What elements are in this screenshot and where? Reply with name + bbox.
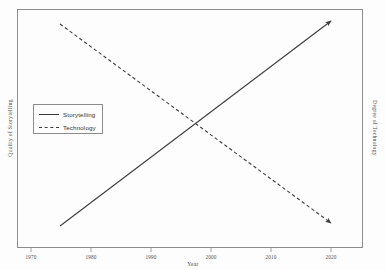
legend-label-storytelling: Storytelling — [63, 111, 95, 118]
legend-entry-technology: Technology — [34, 120, 102, 134]
chart-legend: Storytelling Technology — [33, 104, 103, 134]
x-tick-label-1980: 1980 — [85, 254, 96, 260]
legend-entry-storytelling: Storytelling — [34, 107, 102, 121]
x-tick-label-2000: 2000 — [205, 254, 216, 260]
legend-key-solid-line-icon — [39, 109, 59, 119]
y-axis-title-right: Degree of Technology — [372, 100, 378, 156]
x-axis-title: Year — [187, 261, 199, 267]
x-tick-label-2020: 2020 — [325, 254, 336, 260]
y-axis-title-left: Quality of Storytelling — [7, 99, 13, 157]
legend-label-technology: Technology — [63, 124, 96, 131]
x-tick-label-1990: 1990 — [145, 254, 156, 260]
x-tick-label-2010: 2010 — [265, 254, 276, 260]
x-axis-ticks — [31, 248, 331, 252]
x-tick-label-1970: 1970 — [25, 254, 36, 260]
legend-key-dashed-line-icon — [39, 122, 59, 132]
chart-screenshot: 1970 1980 1990 2000 2010 2020 Year Quali… — [0, 0, 386, 270]
